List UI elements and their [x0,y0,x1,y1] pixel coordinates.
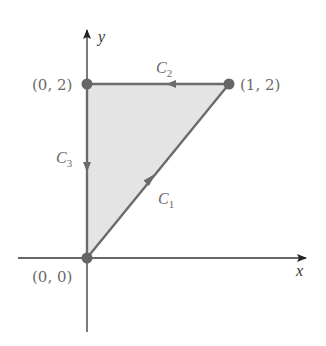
label-curve-c2: C2 [156,59,172,79]
point-origin [82,253,93,264]
point-top-left [82,79,93,90]
label-curve-c1: C1 [158,190,174,210]
label-point-top-left: (0, 2) [32,76,72,94]
label-y-axis: y [96,28,106,46]
diagram-svg: (0, 2) (1, 2) (0, 0) y x C2 C1 C3 [0,0,326,346]
label-point-origin: (0, 0) [32,268,72,286]
point-top-right [224,79,235,90]
label-curve-c3: C3 [56,149,73,169]
label-x-axis: x [295,262,303,279]
label-point-top-right: (1, 2) [240,76,280,94]
diagram-canvas: (0, 2) (1, 2) (0, 0) y x C2 C1 C3 [0,0,326,346]
